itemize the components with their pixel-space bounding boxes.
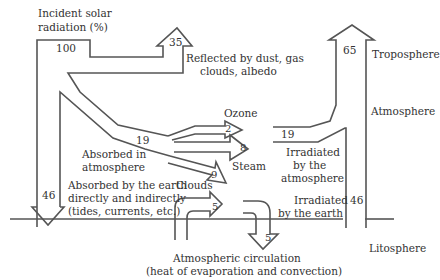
absorbed-earth-label-2: directly and indirectly <box>68 192 186 205</box>
incident-label-2: radiation (%) <box>38 21 108 34</box>
irr-atm-label-3: atmosphere <box>281 172 344 185</box>
absorbed-earth-label-1: Absorbed by the earth <box>68 179 187 192</box>
incident-label-1: Incident solar <box>38 7 112 20</box>
ozone-label: Ozone <box>224 107 257 120</box>
reflected-label-1: Reflected by dust, gas <box>186 52 304 65</box>
value-steam: 8 <box>240 142 246 154</box>
litosphere-label: Litosphere <box>369 242 426 255</box>
irr-atm-label-2: by the <box>293 159 326 172</box>
reflected-label-2: clouds, albedo <box>200 65 277 78</box>
steam-label: Steam <box>232 160 266 173</box>
irr-earth-label-2: by the earth <box>278 207 343 220</box>
steam-arrow <box>174 135 248 160</box>
value-outgoing: 65 <box>343 44 356 56</box>
irr-earth-label-1: Irradiated <box>294 194 348 207</box>
value-irradiated-earth: 46 <box>350 194 363 206</box>
value-circulation-up: 5 <box>212 201 218 213</box>
value-circulation-down: 5 <box>265 232 271 244</box>
absorbed-atm-label-2: atmosphere <box>82 161 145 174</box>
atmosphere-label: Atmosphere <box>371 105 435 118</box>
troposphere-label: Troposphere <box>372 48 440 61</box>
absorbed-earth-label-3: (tides, currents, etc.) <box>68 205 180 218</box>
value-incident: 100 <box>56 42 76 54</box>
absorbed-atm-label-1: Absorbed in <box>82 148 146 161</box>
value-absorbed-earth: 46 <box>42 189 55 201</box>
value-ozone: 2 <box>225 123 231 135</box>
value-reflected: 35 <box>169 36 182 48</box>
irr-atm-label-1: Irradiated <box>286 146 340 159</box>
clouds-label: Clouds <box>176 179 213 192</box>
circulation-label-1: Atmospheric circulation <box>173 252 301 265</box>
circulation-label-2: (heat of evaporation and convection) <box>146 265 342 278</box>
value-irradiated-atmosphere: 19 <box>281 128 294 140</box>
value-absorbed-atmosphere: 19 <box>136 134 149 146</box>
circulation-down-arrow <box>243 201 278 249</box>
